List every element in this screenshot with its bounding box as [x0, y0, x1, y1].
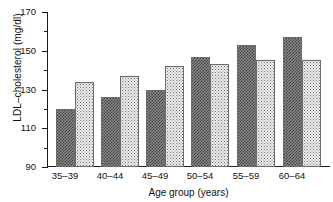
bar-dark-45-49	[146, 90, 165, 168]
y-tick-minor-100	[44, 148, 47, 149]
bars-layer	[48, 12, 330, 167]
y-tick-label-130: 130	[20, 85, 36, 95]
y-tick-minor-140	[44, 70, 47, 71]
bar-dark-40-44	[101, 97, 120, 167]
y-tick-minor-160	[44, 31, 47, 32]
y-tick-110: 110	[42, 128, 47, 129]
bar-dark-55-59	[237, 45, 256, 167]
x-axis-tick-labels: 35–39 40–44 45–49 50–54 55–59 60–64	[47, 171, 330, 185]
bar-light-40-44	[120, 76, 139, 167]
ldl-cholesterol-bar-chart: LDL–cholesterol (mg/dl) 170 150 130 110 …	[0, 0, 333, 202]
bar-dark-35-39	[56, 109, 75, 167]
y-tick-150: 150	[42, 51, 47, 52]
y-tick-130: 130	[42, 90, 47, 91]
plot-area: 170 150 130 110 90	[47, 12, 330, 167]
bar-light-60-64	[302, 60, 321, 167]
y-axis-title: LDL–cholesterol (mg/dl)	[12, 0, 23, 143]
y-tick-label-110: 110	[21, 124, 36, 134]
y-tick-label-170: 170	[20, 7, 36, 17]
y-tick-minor-120	[44, 109, 47, 110]
y-tick-90: 90	[42, 167, 47, 168]
bar-dark-60-64	[283, 37, 302, 167]
bar-light-45-49	[165, 66, 184, 167]
bar-dark-50-54	[191, 57, 210, 167]
bar-light-55-59	[256, 60, 275, 167]
x-tick-label-60-64: 60–64	[264, 171, 320, 181]
y-tick-170: 170	[42, 12, 47, 13]
y-tick-label-150: 150	[20, 46, 36, 56]
bar-light-50-54	[210, 64, 229, 167]
y-tick-label-90: 90	[25, 162, 36, 172]
x-axis-title: Age group (years)	[47, 187, 330, 198]
bar-light-35-39	[75, 82, 94, 167]
